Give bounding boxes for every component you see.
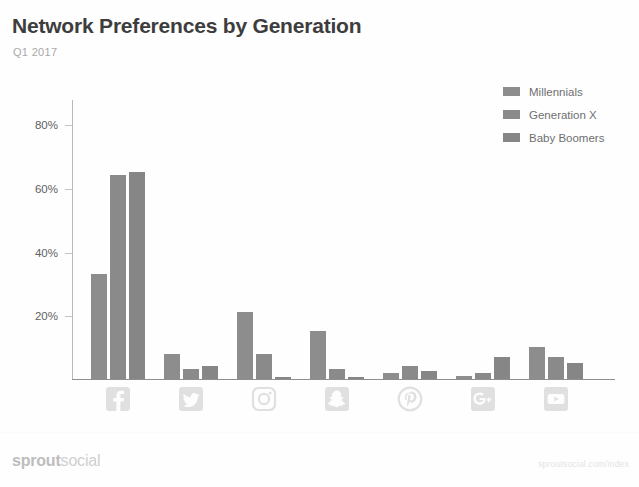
bar (164, 354, 180, 379)
logo-text-light: social (61, 452, 101, 469)
bar (183, 369, 199, 379)
sprout-social-logo: sproutsocial (12, 452, 100, 470)
bar (456, 376, 472, 379)
page-title: Network Preferences by Generation (12, 14, 361, 38)
pinterest-icon (395, 384, 425, 414)
googleplus-icon (468, 384, 498, 414)
bar (329, 369, 345, 379)
facebook-icon (103, 384, 133, 414)
y-axis-tick: 60% (65, 189, 72, 190)
bar-group (164, 100, 218, 379)
bar (202, 366, 218, 379)
bar (91, 274, 107, 379)
bar-group (383, 100, 437, 379)
y-axis-tick-label: 40% (35, 247, 58, 259)
bar-group (91, 100, 145, 379)
chart-subtitle: Q1 2017 (13, 46, 57, 58)
bar-group (456, 100, 510, 379)
legend-swatch-millennials (503, 87, 520, 96)
bar (110, 175, 126, 379)
bar (567, 363, 583, 379)
bar (494, 357, 510, 379)
x-axis-line (72, 379, 615, 380)
bar (421, 371, 437, 379)
bar (275, 377, 291, 379)
chart-page: Network Preferences by Generation Q1 201… (0, 0, 639, 487)
bar (475, 373, 491, 379)
bar (348, 377, 364, 379)
plot-area: 20%40%60%80% (72, 100, 607, 380)
y-axis-tick-label: 20% (35, 310, 58, 322)
logo-text-bold: sprout (12, 452, 61, 469)
bar (310, 331, 326, 379)
y-axis-tick: 80% (65, 125, 72, 126)
y-axis-tick-label: 80% (35, 119, 58, 131)
bar (256, 354, 272, 379)
bar-group (310, 100, 364, 379)
twitter-icon (176, 384, 206, 414)
footer-source-url: sproutsocial.com/index (538, 459, 629, 469)
bar (237, 312, 253, 379)
bar (129, 172, 145, 379)
bar-series-container (73, 100, 607, 379)
legend-label-millennials: Millennials (529, 86, 583, 98)
bar-group (529, 100, 583, 379)
bar (529, 347, 545, 379)
footer-divider (0, 432, 639, 433)
instagram-icon (249, 384, 279, 414)
snapchat-icon (322, 384, 352, 414)
youtube-icon (541, 384, 571, 414)
bar (383, 373, 399, 379)
y-axis-tick-label: 60% (35, 183, 58, 195)
y-axis-tick: 40% (65, 253, 72, 254)
bar (548, 357, 564, 379)
bar (402, 366, 418, 379)
bar-group (237, 100, 291, 379)
x-axis-category-icons (73, 384, 608, 416)
y-axis-tick: 20% (65, 316, 72, 317)
